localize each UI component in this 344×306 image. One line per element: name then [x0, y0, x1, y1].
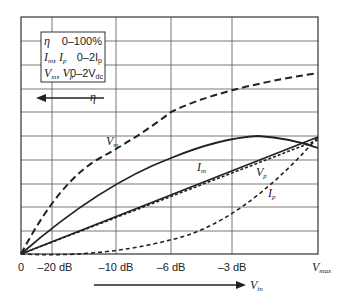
- vin-label: Vin: [250, 278, 263, 293]
- x-tick-vmax: Vmax: [312, 260, 332, 275]
- x-tick-6db: –6 dB: [157, 261, 186, 273]
- x-tick-20db: –20 dB: [38, 261, 73, 273]
- legend-eta-range: 0–100%: [62, 35, 103, 47]
- im-label: Im: [196, 160, 206, 175]
- right-arrow-icon: [94, 281, 246, 289]
- x-tick-0: 0: [18, 261, 24, 273]
- x-axis: 0 –20 dB –10 dB –6 dB –3 dB Vmax: [18, 260, 332, 275]
- eta-label: η: [90, 90, 96, 104]
- legend-row-eta: η: [44, 34, 50, 48]
- x-tick-3db: –3 dB: [218, 261, 247, 273]
- chart: η 0–100% Im, Ip 0–2Ip Vm, Vp 0–2Vdc η Vm…: [0, 0, 344, 306]
- x-tick-10db: –10 dB: [99, 261, 134, 273]
- ip-label: Ip: [267, 186, 276, 201]
- eta-curve: [21, 73, 318, 254]
- vp-label: Vp: [256, 165, 267, 180]
